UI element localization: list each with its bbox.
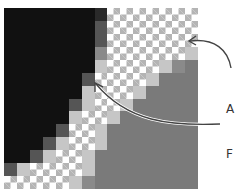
callout-line-1: A [226,102,234,117]
arrow-to-black-edge [95,83,220,124]
callout-text: A F a c [226,72,234,191]
callout-arrows [0,0,237,191]
arrow-to-transparent-edge [189,36,231,68]
callout-line-2: F [226,147,234,162]
